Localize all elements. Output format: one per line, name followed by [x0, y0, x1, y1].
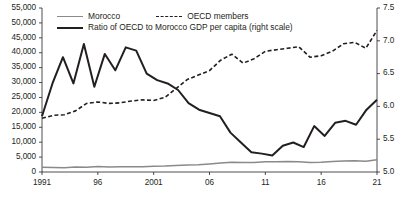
y-right-tick-label: 6.0 [383, 102, 394, 110]
x-tick-label: 16 [301, 179, 341, 187]
y-right-tick-label: 5.0 [383, 168, 394, 176]
y-right-tick-label: 6.5 [383, 69, 394, 77]
x-tick-label: 11 [245, 179, 285, 187]
y-left-tick-label: 0 [0, 168, 36, 176]
y-left-tick-label: 5,000 [0, 153, 36, 161]
x-tick-label: 06 [190, 179, 230, 187]
y-left-tick-label: 50,000 [0, 19, 36, 27]
y-left-tick-label: 30,000 [0, 78, 36, 86]
gdp-per-capita-chart: Morocco OECD members Ratio of OECD to Mo… [0, 0, 415, 201]
plot-area [0, 0, 415, 201]
x-tick-label: 2001 [134, 179, 174, 187]
x-tick-label: 21 [357, 179, 397, 187]
series-line-morocco [42, 160, 377, 168]
y-right-tick-label: 5.5 [383, 135, 394, 143]
y-left-tick-label: 40,000 [0, 48, 36, 56]
y-left-tick-label: 20,000 [0, 108, 36, 116]
y-left-tick-label: 45,000 [0, 34, 36, 42]
y-right-tick-label: 7.5 [383, 4, 394, 12]
y-left-tick-label: 35,000 [0, 63, 36, 71]
y-left-tick-label: 15,000 [0, 123, 36, 131]
y-right-tick-label: 7.0 [383, 37, 394, 45]
x-tick-label: 1991 [22, 179, 62, 187]
y-left-tick-label: 55,000 [0, 4, 36, 12]
series-line-ratio [42, 44, 377, 156]
x-tick-label: 96 [78, 179, 118, 187]
y-left-tick-label: 10,000 [0, 138, 36, 146]
y-left-tick-label: 25,000 [0, 93, 36, 101]
